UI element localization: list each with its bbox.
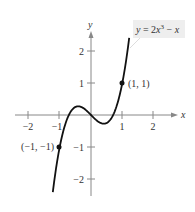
x-axis-arrow-icon — [171, 113, 178, 118]
y-tick-label: 2 — [79, 46, 84, 57]
function-label: y = 2x3 − x — [135, 23, 180, 35]
point-1-1 — [120, 81, 125, 86]
y-tick-label: −2 — [73, 174, 84, 185]
function-graph: −2 −1 1 2 2 1 −1 −2 x y y = 2x3 − x (1, … — [0, 0, 195, 212]
y-tick-label: −1 — [73, 142, 84, 153]
y-tick-label: 1 — [79, 78, 84, 89]
x-tick-label: −2 — [23, 121, 34, 132]
x-axis-label: x — [180, 109, 186, 120]
x-tick-label: −1 — [52, 121, 63, 132]
function-label-leader — [130, 38, 140, 48]
x-tick-label: 1 — [120, 121, 125, 132]
y-axis-arrow-icon — [89, 31, 94, 38]
point-label: (1, 1) — [128, 78, 150, 90]
y-axis-label: y — [87, 19, 93, 30]
point-neg1-neg1 — [57, 145, 62, 150]
point-label: (−1, −1) — [21, 141, 54, 153]
x-tick-label: 2 — [151, 121, 156, 132]
